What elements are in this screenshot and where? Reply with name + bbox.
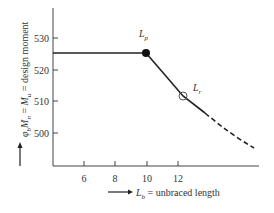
- arrow-up-icon: [18, 142, 23, 148]
- x-tick-labels: 6 8 10 12: [82, 173, 184, 184]
- y-tick-510: 510: [34, 96, 49, 107]
- x-tick-12: 12: [173, 173, 183, 184]
- y-tick-labels: 530 520 510 500: [34, 33, 49, 139]
- x-tick-6: 6: [82, 173, 87, 184]
- x-ticks: [84, 161, 178, 166]
- elastic-ltb-dashed-line: [205, 113, 254, 148]
- lp-point-marker: [142, 49, 150, 57]
- x-tick-10: 10: [142, 173, 152, 184]
- lp-label: Lp: [138, 28, 149, 42]
- y-tick-520: 520: [34, 65, 49, 76]
- y-tick-530: 530: [34, 33, 49, 44]
- arrow-right-icon: [128, 190, 133, 195]
- svg-text:φbMn = Mu = design moment: φbMn = Mu = design moment: [19, 21, 33, 137]
- moment-vs-unbraced-length-chart: 530 520 510 500 6 8 10 12 Lp Lr Lb = unb…: [0, 0, 274, 213]
- x-axis-title: Lb = unbraced length: [108, 187, 220, 201]
- lr-label: Lr: [192, 82, 202, 96]
- x-tick-8: 8: [113, 173, 118, 184]
- y-tick-500: 500: [34, 128, 49, 139]
- y-axis-title: φbMn = Mu = design moment: [18, 21, 34, 166]
- svg-text:Lb = unbraced length: Lb = unbraced length: [135, 187, 220, 201]
